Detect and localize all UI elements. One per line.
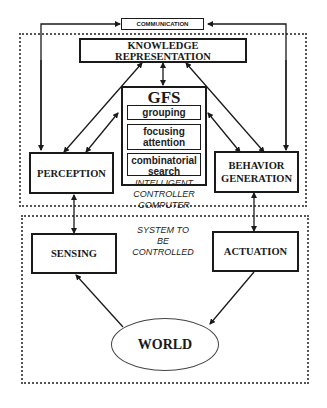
world-ellipse: WORLD xyxy=(111,318,219,371)
system-to-be-controlled-label: SYSTEM TO BE CONTROLLED xyxy=(130,225,196,258)
gfs-item-combinatorial-search: combinatorial search xyxy=(127,153,201,176)
actuation-label: ACTUATION xyxy=(224,246,287,257)
gfs-item-focusing-attention: focusing attention xyxy=(127,124,201,150)
communication-label: COMMUNICATION xyxy=(137,21,189,27)
knowledge-representation-label: KNOWLEDGE REPRESENTATION xyxy=(81,40,245,62)
sensing-label: SENSING xyxy=(51,248,97,259)
sensing-box: SENSING xyxy=(31,233,117,274)
world-label: WORLD xyxy=(138,337,192,353)
behavior-generation-box: BEHAVIOR GENERATION xyxy=(214,151,299,193)
behavior-generation-label: BEHAVIOR GENERATION xyxy=(221,159,292,185)
perception-label: PERCEPTION xyxy=(37,168,106,179)
knowledge-representation-box: KNOWLEDGE REPRESENTATION xyxy=(79,38,247,63)
gfs-item-grouping: grouping xyxy=(127,105,201,120)
perception-box: PERCEPTION xyxy=(29,152,114,194)
communication-box: COMMUNICATION xyxy=(121,18,204,30)
intelligent-controller-label: INTELLIGENT CONTROLLER COMPUTER xyxy=(128,178,200,211)
actuation-box: ACTUATION xyxy=(212,231,299,272)
